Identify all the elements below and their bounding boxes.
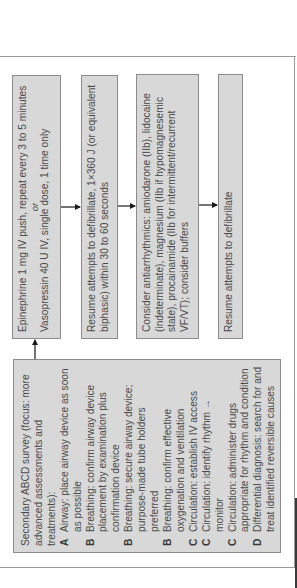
flow-arrows (0, 0, 297, 588)
flowchart-canvas: Epinephrine 1 mg IV push, repeat every 3… (0, 0, 297, 588)
